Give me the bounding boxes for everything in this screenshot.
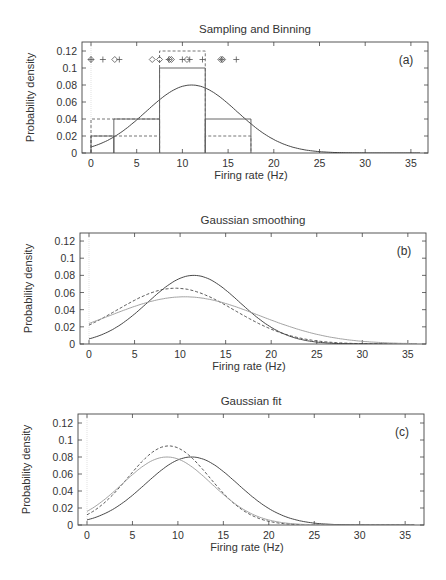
y-tick-label: 0.02 [57, 130, 78, 142]
x-tick-label: 20 [268, 157, 280, 169]
x-tick-label: 25 [311, 348, 323, 360]
x-tick-label: 0 [88, 157, 94, 169]
x-tick-label: 35 [399, 529, 411, 541]
sample-plus-marker [179, 57, 185, 63]
panel-label: (c) [395, 425, 409, 439]
y-tick-label: 0.06 [53, 468, 74, 480]
chart-title: Gaussian smoothing [201, 214, 306, 226]
x-tick-label: 0 [86, 348, 92, 360]
x-tick-label: 15 [220, 348, 232, 360]
x-tick-label: 5 [134, 157, 140, 169]
y-tick-label: 0.08 [53, 451, 74, 463]
x-tick-label: 20 [263, 529, 275, 541]
x-tick-label: 35 [405, 157, 417, 169]
plot-frame [80, 233, 426, 344]
sample-plus-marker [100, 57, 106, 63]
y-axis-label: Probability density [20, 424, 32, 514]
sample-plus-marker [88, 57, 94, 63]
panel-label: (b) [397, 244, 412, 258]
plot-frame [78, 414, 424, 525]
figure: Sampling and Binning00.020.040.060.080.1… [0, 0, 446, 580]
chart-title: Gaussian fit [221, 395, 283, 407]
x-tick-label: 15 [218, 529, 230, 541]
y-tick-label: 0.04 [53, 485, 74, 497]
panel-label: (a) [399, 53, 414, 67]
y-tick-label: 0.06 [57, 96, 78, 108]
x-tick-label: 25 [308, 529, 320, 541]
y-tick-label: 0.1 [58, 434, 73, 446]
y-tick-label: 0 [67, 519, 73, 531]
histogram-bin [91, 136, 160, 153]
y-tick-label: 0.02 [55, 321, 76, 333]
x-tick-label: 30 [356, 348, 368, 360]
x-axis-label: Firing rate (Hz) [214, 169, 287, 181]
x-tick-label: 35 [402, 348, 414, 360]
y-tick-label: 0.12 [57, 45, 78, 57]
chart-panel-c: Gaussian fit00.020.040.060.080.10.120510… [20, 395, 424, 553]
sample-plus-marker [200, 57, 206, 63]
y-axis-label: Probability density [24, 52, 36, 142]
y-tick-label: 0 [71, 147, 77, 159]
y-tick-label: 0.1 [62, 62, 77, 74]
x-tick-label: 10 [177, 157, 189, 169]
plot-frame [82, 42, 428, 153]
sample-plus-marker [233, 57, 239, 63]
density-curve [89, 297, 417, 344]
y-tick-label: 0.12 [55, 235, 76, 247]
x-tick-label: 10 [174, 348, 186, 360]
y-tick-label: 0 [69, 338, 75, 350]
x-tick-label: 30 [354, 529, 366, 541]
x-tick-label: 15 [222, 157, 234, 169]
x-tick-label: 30 [359, 157, 371, 169]
chart-title: Sampling and Binning [199, 23, 311, 35]
chart-panel-a: Sampling and Binning00.020.040.060.080.1… [24, 23, 428, 181]
density-curve [89, 288, 417, 344]
x-tick-label: 20 [265, 348, 277, 360]
sample-plus-marker [116, 57, 122, 63]
y-tick-label: 0.06 [55, 287, 76, 299]
x-tick-label: 5 [130, 529, 136, 541]
y-tick-label: 0.12 [53, 417, 74, 429]
y-tick-label: 0.08 [57, 79, 78, 91]
x-tick-label: 0 [84, 529, 90, 541]
y-tick-label: 0.08 [55, 269, 76, 281]
y-axis-label: Probability density [22, 243, 34, 333]
x-axis-label: Firing rate (Hz) [210, 541, 283, 553]
density-curve [89, 275, 417, 344]
y-tick-label: 0.02 [53, 502, 74, 514]
histogram-bin [160, 68, 206, 153]
histogram-bin [160, 51, 206, 153]
chart-panel-b: Gaussian smoothing00.020.040.060.080.10.… [22, 214, 426, 372]
x-tick-label: 25 [314, 157, 326, 169]
x-tick-label: 5 [132, 348, 138, 360]
y-tick-label: 0.1 [60, 252, 75, 264]
x-tick-label: 10 [172, 529, 184, 541]
sample-diamond-marker [149, 57, 155, 63]
x-axis-label: Firing rate (Hz) [212, 360, 285, 372]
y-tick-label: 0.04 [57, 113, 78, 125]
y-tick-label: 0.04 [55, 304, 76, 316]
